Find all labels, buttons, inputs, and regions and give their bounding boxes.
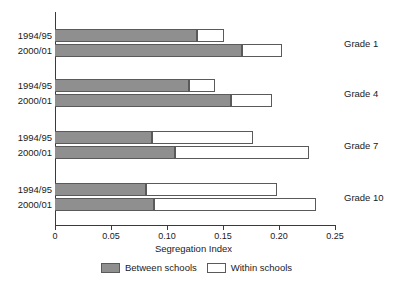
x-axis-line — [55, 225, 336, 226]
group-label: Grade 7 — [344, 140, 378, 152]
bar-segment-within-schools — [146, 183, 277, 196]
x-axis-tick — [335, 225, 336, 230]
bar-segment-between-schools — [55, 146, 175, 159]
x-axis-tick-label: 0 — [52, 231, 57, 242]
x-axis-tick — [279, 225, 280, 230]
x-axis-tick — [223, 225, 224, 230]
bar-row-label: 2000/01 — [18, 146, 52, 159]
chart-legend: Between schools Within schools — [0, 262, 393, 273]
x-axis-title-text: Segregation Index — [155, 243, 232, 254]
legend-swatch-between-schools — [101, 263, 120, 273]
x-axis-tick-label: 0.15 — [214, 231, 232, 242]
bar-segment-between-schools — [55, 79, 189, 92]
group-label: Grade 10 — [344, 192, 384, 204]
bar-row-label: 2000/01 — [18, 44, 52, 57]
bar-segment-between-schools — [55, 183, 146, 196]
bar-segment-within-schools — [175, 146, 309, 159]
segregation-index-chart: 00.050.100.150.200.25 Segregation Index … — [0, 0, 393, 285]
bar-segment-between-schools — [55, 198, 154, 211]
x-axis-tick-label: 0.10 — [158, 231, 176, 242]
legend-label-within-schools: Within schools — [231, 262, 292, 273]
bar-row-label: 2000/01 — [18, 94, 52, 107]
bar-segment-within-schools — [231, 94, 272, 107]
x-axis-tick — [167, 225, 168, 230]
bar-segment-between-schools — [55, 44, 242, 57]
bar-segment-within-schools — [242, 44, 282, 57]
legend-item-within-schools: Within schools — [207, 262, 292, 273]
x-axis-tick — [111, 225, 112, 230]
bar-segment-between-schools — [55, 29, 197, 42]
legend-label-between-schools: Between schools — [125, 262, 197, 273]
bar-segment-within-schools — [152, 131, 253, 144]
bar-row-label: 1994/95 — [18, 183, 52, 196]
bar-row-label: 2000/01 — [18, 198, 52, 211]
x-axis-tick-label: 0.25 — [326, 231, 344, 242]
group-label: Grade 4 — [344, 88, 378, 100]
x-axis-title: Segregation Index — [0, 243, 393, 254]
bar-segment-within-schools — [154, 198, 316, 211]
bar-segment-within-schools — [189, 79, 215, 92]
bar-segment-between-schools — [55, 131, 152, 144]
group-label: Grade 1 — [344, 38, 378, 50]
x-axis-tick-label: 0.05 — [102, 231, 120, 242]
bar-segment-between-schools — [55, 94, 231, 107]
legend-item-between-schools: Between schools — [101, 262, 197, 273]
bar-segment-within-schools — [197, 29, 224, 42]
bar-row-label: 1994/95 — [18, 79, 52, 92]
x-axis-tick-label: 0.20 — [270, 231, 288, 242]
bar-row-label: 1994/95 — [18, 29, 52, 42]
legend-swatch-within-schools — [207, 263, 226, 273]
x-axis-tick — [55, 225, 56, 230]
bar-row-label: 1994/95 — [18, 131, 52, 144]
